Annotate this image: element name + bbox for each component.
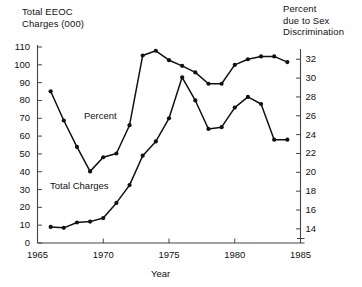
data-point-marker [62,118,66,122]
series-group [49,49,290,230]
data-point-marker [75,145,79,149]
data-point-marker [114,151,118,155]
data-point-marker [154,49,158,53]
data-point-marker [193,98,197,102]
data-point-marker [49,89,53,93]
data-point-marker [272,138,276,142]
data-point-marker [220,125,224,129]
data-point-marker [259,102,263,106]
data-point-marker [206,127,210,131]
data-point-marker [285,138,289,142]
data-point-marker [141,53,145,57]
data-point-marker [259,54,263,58]
data-point-marker [101,155,105,159]
data-point-marker [127,123,131,127]
data-point-marker [75,220,79,224]
data-point-marker [167,116,171,120]
data-point-marker [180,75,184,79]
data-point-marker [206,82,210,86]
data-point-marker [246,57,250,61]
series-line-percent [51,51,288,172]
chart-figure: Total EEOC Charges (000) Percent due to … [0,0,362,287]
data-point-marker [49,225,53,229]
data-point-marker [101,216,105,220]
data-point-marker [285,60,289,64]
data-point-marker [220,82,224,86]
plot-area [0,0,362,287]
series-line-total-charges [51,77,288,228]
data-point-marker [246,95,250,99]
data-point-marker [167,58,171,62]
data-point-marker [233,105,237,109]
data-point-marker [141,154,145,158]
data-point-marker [62,226,66,230]
data-point-marker [127,183,131,187]
data-point-marker [154,139,158,143]
data-point-marker [88,220,92,224]
data-point-marker [193,70,197,74]
data-point-marker [272,54,276,58]
data-point-marker [114,201,118,205]
data-point-marker [88,169,92,173]
axes-group [38,45,305,243]
data-point-marker [233,63,237,67]
data-point-marker [180,64,184,68]
